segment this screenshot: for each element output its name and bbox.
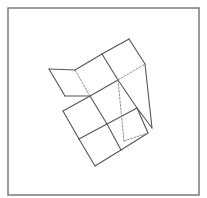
edge-line [121,133,148,150]
edge-line [90,80,118,96]
edge-line [90,96,107,124]
edge-line [102,39,129,54]
edge-line [129,39,145,64]
edge-line [79,124,107,139]
edge-line [102,54,118,80]
edge-line [107,124,121,150]
cube-net-diagram [0,0,207,198]
hidden-edge-line [118,64,145,80]
solid-edges [49,39,152,166]
hidden-edge-line [118,80,124,141]
figure-frame [8,8,199,195]
edge-line [75,54,102,70]
hidden-edge-line [124,133,148,141]
edge-line [79,139,95,166]
edge-line [145,64,152,128]
edge-line [49,69,75,70]
edge-line [118,80,137,108]
hidden-edges-dashed [75,64,148,141]
edge-line [63,96,90,111]
edge-line [63,111,79,139]
edge-line [95,150,121,166]
figure-canvas [0,0,207,198]
hidden-edge-line [75,70,90,96]
edge-line [49,69,65,96]
